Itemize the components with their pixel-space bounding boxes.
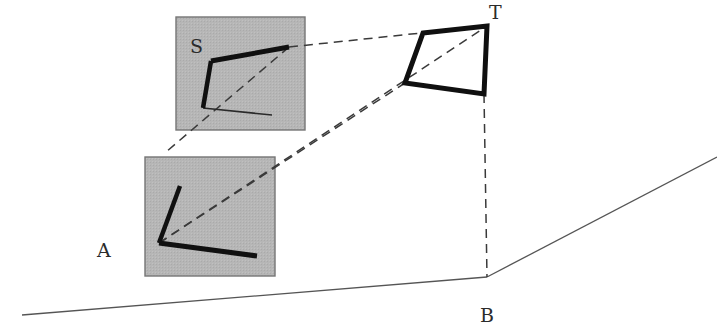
dashed-vertical-T-to-B (484, 94, 487, 277)
quad-T (405, 26, 487, 94)
label-B: B (480, 304, 494, 326)
label-S: S (190, 35, 203, 57)
patch-S (176, 17, 305, 130)
ground-line-left (22, 277, 487, 315)
label-A: A (96, 239, 111, 261)
projective-geometry-figure: A B S T (0, 0, 717, 330)
figure-canvas: A B S T (0, 0, 717, 330)
patches-group (145, 17, 305, 276)
ground-lines-group (22, 157, 717, 315)
label-T: T (489, 1, 502, 23)
ground-line-right (487, 157, 717, 277)
